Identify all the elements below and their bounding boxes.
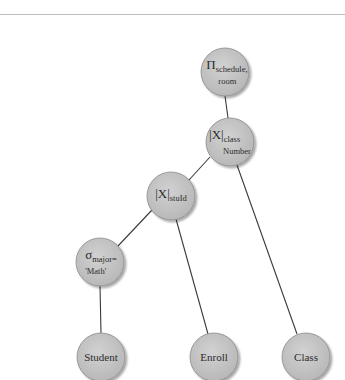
projection-attributes-cont: room — [206, 76, 247, 87]
join-attribute-cont: Number — [209, 146, 251, 157]
label-student: Student — [84, 352, 118, 363]
label-select-major: σmajor= 'Math' — [85, 249, 117, 277]
edge-select-major-student — [100, 286, 101, 333]
edge-join-stuid-select-major — [118, 210, 152, 246]
label-class: Class — [294, 352, 318, 363]
join-attribute: class — [224, 134, 241, 144]
selection-operator: σ — [85, 247, 92, 262]
edge-join-stuid-enroll — [176, 219, 208, 334]
selection-condition-cont: 'Math' — [85, 266, 117, 277]
label-project: Πschedule, room — [206, 59, 247, 87]
projection-operator: Π — [206, 57, 215, 72]
edge-project-join-classnumber — [225, 96, 228, 118]
edge-join-classnumber-class — [237, 165, 297, 334]
edges — [100, 96, 297, 334]
join-attribute: stuId — [170, 193, 187, 203]
edge-join-classnumber-join-stuid — [189, 157, 210, 180]
selection-condition: major= — [92, 254, 117, 264]
join-operator: |X| — [155, 186, 170, 201]
label-join-classnumber: |X|class Number — [209, 129, 251, 157]
label-join-stuid: |X|stuId — [155, 188, 187, 204]
join-operator: |X| — [209, 127, 224, 142]
label-enroll: Enroll — [200, 352, 228, 363]
projection-attributes: schedule, — [216, 64, 248, 74]
